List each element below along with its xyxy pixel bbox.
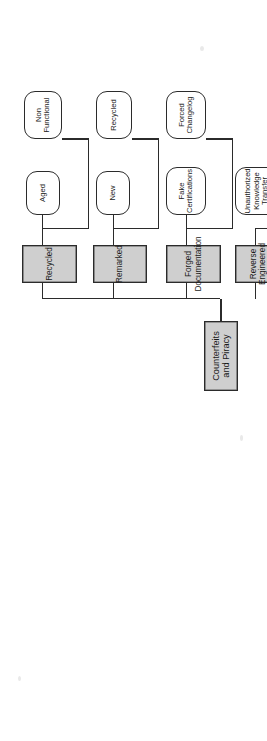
leaf-node-forced-changelog[interactable]: Forced Changelog (166, 91, 206, 139)
category-label: Remarked (115, 243, 124, 285)
child-spine-forged-documentation (186, 228, 232, 229)
connector-remarked-recycled (158, 139, 159, 229)
child-stub-forged-documentation (186, 229, 187, 245)
connector-root-to-recycled (42, 283, 43, 299)
drop-line-non-functional (62, 138, 89, 139)
connector-remarked-new (113, 215, 114, 229)
category-node-remarked[interactable]: Remarked (93, 245, 147, 283)
child-spine-recycled (42, 228, 88, 229)
leaf-label: Recycled (110, 97, 119, 132)
leaf-node-recycled-child[interactable]: Recycled (96, 91, 132, 139)
category-spine-line (42, 298, 220, 299)
root-node-label: Counterfeits and Piracy (211, 329, 232, 383)
leaf-node-aged[interactable]: Aged (26, 171, 60, 215)
scan-speck (18, 676, 21, 681)
category-label: Reverse Engineered (Cloned) (249, 241, 267, 287)
leaf-label: Aged (39, 182, 48, 204)
category-node-forged-documentation[interactable]: Forged Documentation (166, 245, 221, 283)
connector-recycled-non-functional (88, 139, 89, 229)
leaf-label: New (109, 183, 118, 202)
drop-line-forced-changelog (206, 138, 233, 139)
leaf-label: Forced Changelog (178, 95, 195, 136)
leaf-label: Unauthorized Knowledge Transfer (244, 166, 267, 215)
category-label: Recycled (45, 245, 54, 283)
connector-root-to-remarked (113, 283, 114, 299)
child-spine-remarked (113, 228, 158, 229)
scan-speck (240, 435, 243, 441)
leaf-node-non-functional[interactable]: Non Functional (24, 91, 62, 139)
leaf-node-unauthorized-knowledge-transfer[interactable]: Unauthorized Knowledge Transfer (235, 167, 267, 215)
category-node-recycled[interactable]: Recycled (22, 245, 77, 283)
leaf-node-fake-certifications[interactable]: Fake Certifications (166, 167, 206, 215)
connector-forged-fake-certifications (186, 215, 187, 229)
root-stem-line (220, 299, 221, 321)
diagram-rotated-canvas: Counterfeits and Piracy Recycled Aged No… (0, 0, 267, 741)
connector-forged-forced-changelog (232, 139, 233, 229)
child-stub-recycled (42, 229, 43, 245)
root-node-counterfeits-and-piracy[interactable]: Counterfeits and Piracy (204, 321, 238, 391)
connector-recycled-aged (42, 215, 43, 229)
category-node-reverse-engineered[interactable]: Reverse Engineered (Cloned) (235, 245, 267, 283)
child-spine-reverse-engineered (255, 228, 267, 229)
child-stub-reverse-engineered (255, 229, 256, 245)
leaf-label: Fake Certifications (178, 167, 195, 215)
leaf-node-new[interactable]: New (96, 171, 130, 215)
leaf-label: Non Functional (35, 95, 52, 134)
taxonomy-diagram: Counterfeits and Piracy Recycled Aged No… (0, 0, 267, 741)
scan-speck (200, 46, 204, 51)
drop-line-recycled-child (132, 138, 159, 139)
child-stub-remarked (113, 229, 114, 245)
